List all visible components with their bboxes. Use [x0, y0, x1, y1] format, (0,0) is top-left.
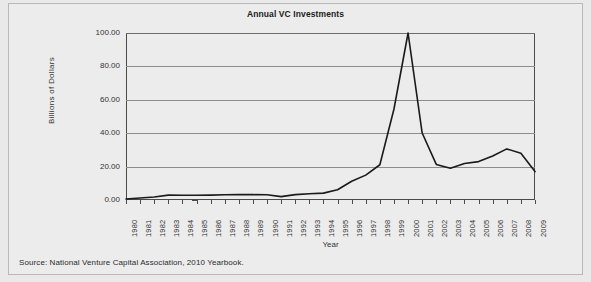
x-axis-tick-label: 1987	[228, 220, 237, 238]
x-axis-tick-mark	[352, 200, 353, 204]
x-axis-tick-label: 1991	[285, 220, 294, 238]
x-axis-tick-labels: 1980198119821983198419851986198719881989…	[126, 205, 535, 239]
x-axis-tick-mark	[507, 200, 508, 204]
x-axis-tick-mark	[126, 200, 127, 204]
x-axis-tick-mark	[309, 200, 310, 204]
x-axis-tick-label: 1997	[369, 220, 378, 238]
x-axis-tick-label: 2002	[440, 220, 449, 238]
x-axis-tick-mark	[408, 200, 409, 204]
x-axis-tick-label: 1989	[256, 220, 265, 238]
x-axis-tick-mark	[535, 200, 536, 204]
x-axis-tick-mark	[464, 200, 465, 204]
x-axis-tick-mark	[140, 200, 141, 204]
x-axis-tick-mark	[182, 200, 183, 204]
y-axis-tick-label: 100.00	[74, 29, 120, 37]
x-axis-tick-mark	[168, 200, 169, 204]
chart-title: Annual VC Investments	[0, 9, 591, 19]
x-axis-tick-label: 1982	[158, 220, 167, 238]
x-axis-tick-mark	[521, 200, 522, 204]
x-axis-tick-label: 1985	[200, 220, 209, 238]
y-axis-tick-label: 60.00	[74, 96, 120, 104]
x-axis-tick-label: 2009	[539, 220, 548, 238]
x-axis-tick-mark	[267, 200, 268, 204]
x-axis-tick-mark	[281, 200, 282, 204]
x-axis-tick-mark	[394, 200, 395, 204]
x-axis-tick-mark	[422, 200, 423, 204]
x-axis-tick-mark	[380, 200, 381, 204]
x-axis-tick-label: 2005	[482, 220, 491, 238]
x-axis-tick-mark	[493, 200, 494, 204]
x-axis-tick-label: 1983	[172, 220, 181, 238]
x-axis-tick-mark	[366, 200, 367, 204]
x-axis-title: Year	[126, 240, 535, 249]
x-axis-tick-label: 1994	[327, 220, 336, 238]
y-axis-tick-labels: 0.0020.0040.0060.0080.00100.00	[72, 33, 120, 200]
x-axis-tick-label: 1980	[130, 220, 139, 238]
x-axis-tick-mark	[197, 200, 198, 204]
x-axis-tick-mark	[323, 200, 324, 204]
x-axis-tick-label: 2003	[454, 220, 463, 238]
data-line-svg	[126, 33, 535, 200]
x-axis-tick-mark	[154, 200, 155, 204]
y-axis-tick-label: 80.00	[74, 62, 120, 70]
x-axis-tick-label: 1995	[341, 220, 350, 238]
x-axis-tick-label: 2000	[412, 220, 421, 238]
x-axis-tick-mark	[225, 200, 226, 204]
series-line-vc-investments	[126, 33, 535, 199]
x-axis-tick-label: 2004	[468, 220, 477, 238]
x-axis-tick-label: 1990	[271, 220, 280, 238]
figure-container: Annual VC Investments 0.0020.0040.0060.0…	[0, 0, 591, 282]
x-axis-tick-label: 1993	[313, 220, 322, 238]
x-axis-tick-mark	[450, 200, 451, 204]
x-axis-tick-label: 1981	[144, 220, 153, 238]
x-axis-tick-label: 1992	[299, 220, 308, 238]
x-axis-tick-label: 1996	[355, 220, 364, 238]
x-axis-tick-label: 2007	[510, 220, 519, 238]
x-axis-tick-mark	[253, 200, 254, 204]
x-axis-tick-mark	[211, 200, 212, 204]
x-axis-tick-label: 1999	[397, 220, 406, 238]
y-axis-tick-label: 40.00	[74, 129, 120, 137]
plot-area-wrapper	[126, 33, 535, 200]
x-axis-tick-label: 1998	[383, 220, 392, 238]
x-axis-tick-mark	[239, 200, 240, 204]
x-axis-tick-label: 2008	[524, 220, 533, 238]
x-axis-tick-mark	[338, 200, 339, 204]
x-axis-tick-label: 1984	[186, 220, 195, 238]
x-axis-tick-label: 1986	[214, 220, 223, 238]
x-axis-tick-label: 2001	[426, 220, 435, 238]
y-axis-title: Billions of Dollars	[47, 26, 56, 156]
x-axis-tick-mark	[436, 200, 437, 204]
y-axis-tick-label: 20.00	[74, 163, 120, 171]
x-axis-tick-mark	[479, 200, 480, 204]
x-axis-tick-mark	[295, 200, 296, 204]
source-note: Source: National Venture Capital Associa…	[19, 258, 244, 267]
x-axis-tick-label: 2006	[496, 220, 505, 238]
x-axis-tick-label: 1988	[242, 220, 251, 238]
y-axis-tick-label: 0.00	[74, 196, 120, 204]
